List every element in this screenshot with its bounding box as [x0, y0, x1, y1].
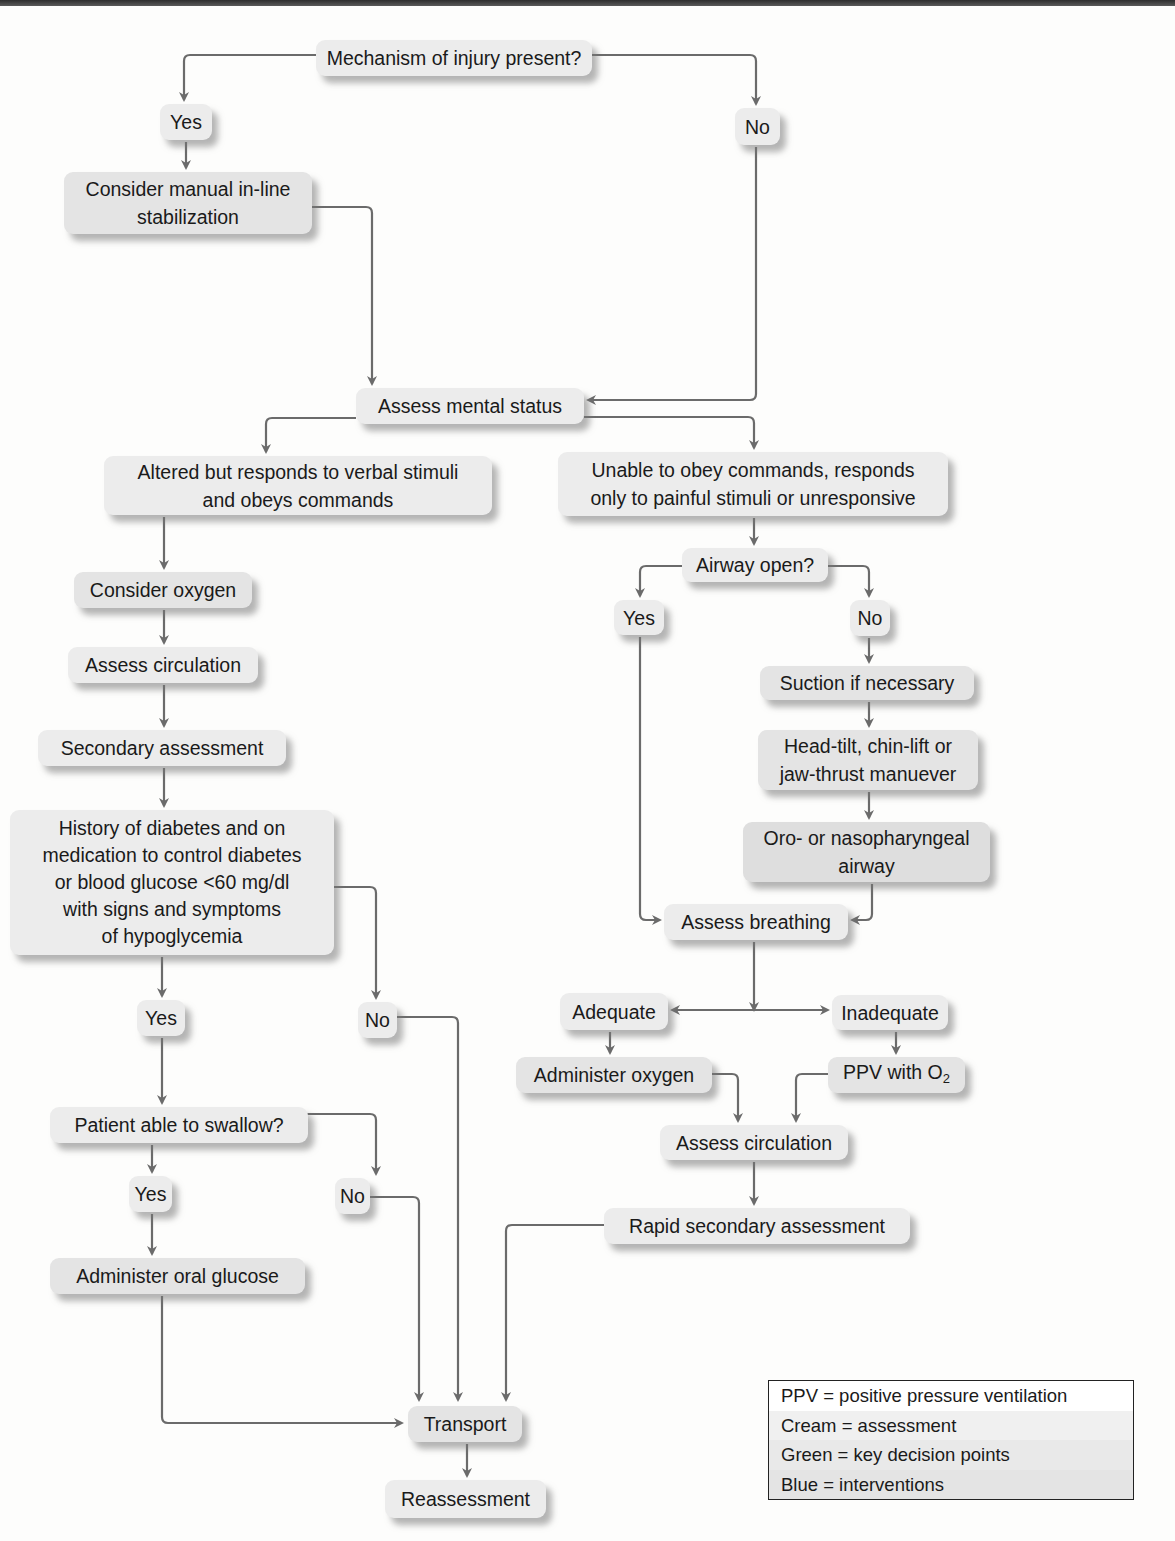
node-patient-able-to-swallow: Patient able to swallow?	[50, 1107, 308, 1143]
node-assess-circulation-right: Assess circulation	[660, 1125, 848, 1160]
node-airway-yes: Yes	[614, 600, 664, 635]
node-assess-circulation-left: Assess circulation	[68, 647, 258, 683]
node-label: Suction if necessary	[780, 669, 955, 697]
node-label: No	[340, 1182, 365, 1210]
node-label: Yes	[623, 604, 655, 632]
node-transport: Transport	[408, 1406, 522, 1442]
node-label: Administer oral glucose	[76, 1262, 279, 1290]
node-diabetes-no: No	[358, 1002, 397, 1038]
node-manual-stabilization: Consider manual in-line stabilization	[64, 172, 312, 234]
node-rapid-secondary-assessment: Rapid secondary assessment	[604, 1208, 910, 1244]
node-label: Consider oxygen	[90, 576, 236, 604]
node-inadequate: Inadequate	[832, 995, 948, 1030]
node-label: Adequate	[572, 998, 656, 1026]
node-assess-mental-status: Assess mental status	[356, 388, 584, 424]
node-label: No	[858, 604, 883, 632]
node-label: Altered but responds to verbal stimuli a…	[138, 458, 459, 514]
node-administer-oxygen: Administer oxygen	[516, 1057, 712, 1093]
node-label: Assess circulation	[676, 1129, 832, 1157]
node-reassessment: Reassessment	[385, 1480, 546, 1518]
node-altered-responds-verbal: Altered but responds to verbal stimuli a…	[104, 456, 492, 515]
node-label: Assess breathing	[681, 908, 831, 936]
node-adequate: Adequate	[560, 993, 668, 1030]
node-swallow-yes: Yes	[129, 1176, 172, 1212]
node-label: Yes	[145, 1004, 177, 1032]
node-assess-breathing: Assess breathing	[664, 904, 848, 940]
node-mechanism-no: No	[735, 108, 780, 145]
node-label: Yes	[135, 1180, 167, 1208]
node-diabetes-yes: Yes	[137, 1000, 185, 1036]
node-label: Oro- or nasopharyngeal airway	[764, 824, 970, 880]
node-label: Consider manual in-line stabilization	[86, 175, 291, 231]
legend-blue: Blue = interventions	[769, 1470, 1133, 1500]
node-label: Secondary assessment	[61, 734, 264, 762]
node-label: No	[365, 1006, 390, 1034]
legend-box: PPV = positive pressure ventilation Crea…	[768, 1380, 1134, 1500]
node-administer-oral-glucose: Administer oral glucose	[50, 1258, 305, 1294]
node-label: Unable to obey commands, responds only t…	[590, 456, 915, 512]
node-label: History of diabetes and on medication to…	[42, 815, 301, 950]
node-label: PPV with O2	[843, 1058, 950, 1093]
ppv-subscript: 2	[943, 1071, 950, 1086]
node-airway-no: No	[850, 600, 890, 636]
node-label: Administer oxygen	[534, 1061, 694, 1089]
node-secondary-assessment: Secondary assessment	[38, 730, 286, 766]
node-oro-nasopharyngeal-airway: Oro- or nasopharyngeal airway	[743, 822, 990, 882]
node-mechanism-yes: Yes	[160, 104, 212, 140]
node-label: Airway open?	[696, 551, 814, 579]
node-swallow-no: No	[335, 1178, 370, 1214]
node-label: Transport	[424, 1410, 507, 1438]
node-label: Patient able to swallow?	[74, 1111, 283, 1139]
node-label: Yes	[170, 108, 202, 136]
node-label: Rapid secondary assessment	[629, 1212, 885, 1240]
node-ppv-with-o2: PPV with O2	[828, 1057, 965, 1093]
node-label: Head-tilt, chin-lift or jaw-thrust manue…	[780, 732, 957, 788]
node-label: Inadequate	[841, 999, 939, 1027]
legend-ppv: PPV = positive pressure ventilation	[769, 1381, 1133, 1411]
node-airway-open: Airway open?	[682, 548, 828, 582]
node-head-tilt-chin-lift: Head-tilt, chin-lift or jaw-thrust manue…	[758, 730, 978, 790]
node-unable-obey-commands: Unable to obey commands, responds only t…	[558, 452, 948, 516]
node-label: Assess mental status	[378, 392, 562, 420]
node-suction-if-necessary: Suction if necessary	[760, 666, 974, 700]
node-label: Mechanism of injury present?	[327, 44, 582, 72]
node-history-of-diabetes: History of diabetes and on medication to…	[10, 810, 334, 955]
node-label: Reassessment	[401, 1485, 530, 1513]
legend-cream: Cream = assessment	[769, 1411, 1133, 1441]
node-label: Assess circulation	[85, 651, 241, 679]
ppv-label-text: PPV with O	[843, 1061, 943, 1083]
legend-green: Green = key decision points	[769, 1440, 1133, 1470]
node-consider-oxygen: Consider oxygen	[74, 572, 252, 608]
node-mechanism-of-injury: Mechanism of injury present?	[316, 40, 592, 76]
node-label: No	[745, 113, 770, 141]
